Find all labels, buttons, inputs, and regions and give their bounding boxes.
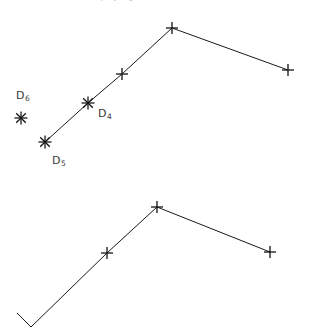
label-subscript: 5 bbox=[61, 159, 66, 168]
label-d4: D4 bbox=[98, 108, 112, 119]
marker-group bbox=[15, 22, 295, 259]
plus-marker-icon bbox=[264, 246, 276, 258]
label-base: D bbox=[98, 107, 107, 120]
data-polyline bbox=[45, 28, 288, 142]
label-base: D bbox=[52, 154, 61, 167]
polyline-group bbox=[17, 28, 288, 327]
star-marker-icon bbox=[82, 97, 95, 110]
label-d6: D6 bbox=[16, 90, 30, 101]
plus-marker-icon bbox=[282, 64, 294, 76]
label-d5: D5 bbox=[52, 155, 66, 166]
figure-canvas: distance matrix for phylogenetic tree D6… bbox=[0, 0, 311, 329]
label-base: D bbox=[16, 89, 25, 102]
plot-svg bbox=[0, 0, 311, 329]
label-subscript: 6 bbox=[25, 94, 30, 103]
star-marker-icon bbox=[15, 112, 28, 125]
data-polyline bbox=[17, 207, 270, 327]
star-marker-icon bbox=[39, 136, 52, 149]
label-subscript: 4 bbox=[107, 112, 112, 121]
